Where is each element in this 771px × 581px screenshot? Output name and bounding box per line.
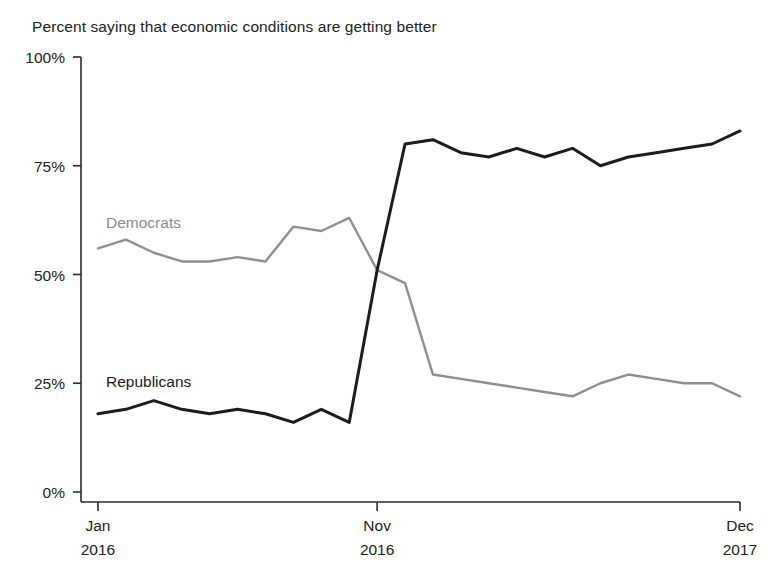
series-line-democrats [98,218,740,396]
y-axis-tick-label: 75% [34,158,65,175]
x-axis-tick-label-month: Dec [726,517,754,534]
chart-plot: 0%25%50%75%100% Jan2016Nov2016Dec2017 De… [0,0,771,581]
x-axis-tick-label-year: 2016 [360,541,394,558]
series-line-republicans [98,131,740,422]
x-axis-tick-label-month: Nov [363,517,391,534]
x-axis-tick-label-month: Jan [86,517,111,534]
series-label-republicans: Republicans [106,373,192,390]
x-axis-tick-labels: Jan2016Nov2016Dec2017 [81,517,757,558]
y-axis-tick-label: 25% [34,375,65,392]
x-axis-tick-label-year: 2017 [723,541,757,558]
y-axis-tick-marks [73,57,81,492]
x-axis-tick-marks [98,502,740,511]
series-label-democrats: Democrats [106,214,181,231]
y-axis-tick-labels: 0%25%50%75%100% [25,49,65,501]
y-axis-tick-label: 50% [34,267,65,284]
chart-container: Percent saying that economic conditions … [0,0,771,581]
y-axis-tick-label: 100% [25,49,65,66]
y-axis-tick-label: 0% [43,484,66,501]
x-axis-tick-label-year: 2016 [81,541,115,558]
